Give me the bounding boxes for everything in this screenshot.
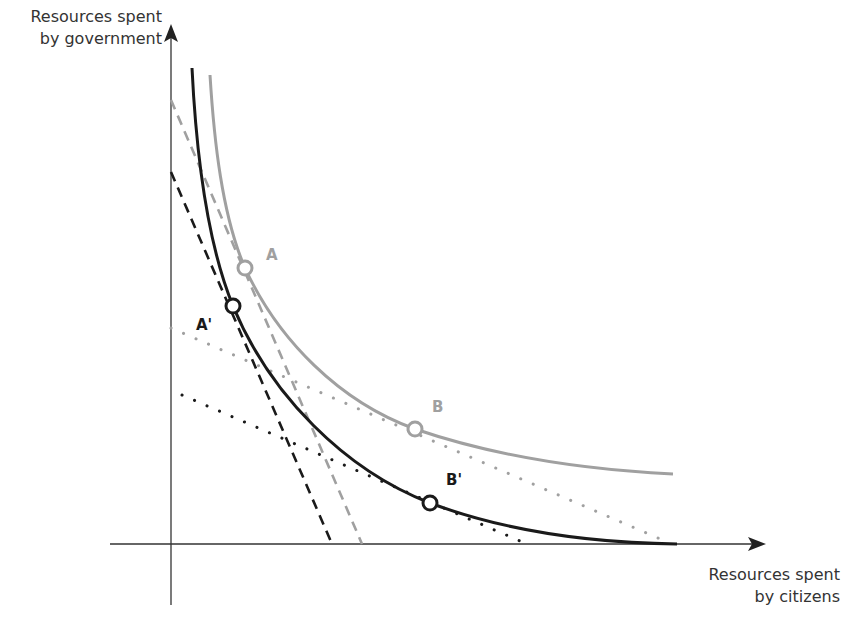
- diagram-canvas: [0, 0, 865, 635]
- point-B-prime-label: B': [446, 471, 462, 489]
- x-axis-label-line1: Resources spent: [690, 564, 840, 586]
- x-axis-label-line2: by citizens: [690, 586, 840, 608]
- point-A-marker: [238, 261, 252, 275]
- point-A-prime-label: A': [196, 316, 212, 334]
- point-A-prime-marker: [226, 299, 240, 313]
- y-axis-label: Resources spent by government: [16, 6, 162, 50]
- point-B-marker: [408, 422, 422, 436]
- point-B-label: B: [432, 398, 443, 416]
- y-axis-label-line2: by government: [16, 28, 162, 50]
- point-A-label: A: [266, 246, 278, 264]
- y-axis-label-line1: Resources spent: [16, 6, 162, 28]
- point-B-prime-marker: [423, 496, 437, 510]
- budget-line-black-dotted: [182, 395, 527, 544]
- x-axis-label: Resources spent by citizens: [690, 564, 840, 608]
